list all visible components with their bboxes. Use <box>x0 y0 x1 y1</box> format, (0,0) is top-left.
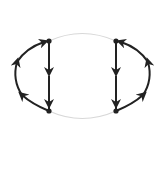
top-arc-edge <box>49 34 116 42</box>
node-top-right <box>113 38 118 43</box>
left-arc-edge <box>15 42 49 111</box>
node-bottom-right <box>113 108 118 113</box>
node-top-left <box>46 38 51 43</box>
bottom-arc-edge <box>49 111 116 119</box>
right-arc-edge <box>116 42 150 111</box>
diagram-canvas <box>0 0 161 175</box>
graph-diagram <box>0 0 161 175</box>
node-bottom-left <box>46 108 51 113</box>
